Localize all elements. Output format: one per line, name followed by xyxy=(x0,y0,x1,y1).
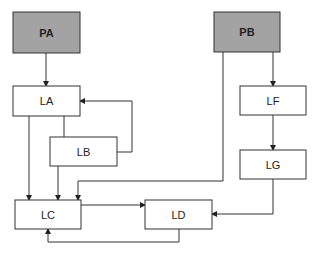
node-lc-label: LC xyxy=(41,209,55,221)
node-pb: PB xyxy=(214,12,280,52)
node-lg: LG xyxy=(240,150,306,179)
node-lc: LC xyxy=(15,200,81,229)
node-pa-label: PA xyxy=(39,27,54,39)
node-lf-label: LF xyxy=(267,95,280,107)
node-la: LA xyxy=(13,86,80,116)
node-ld-label: LD xyxy=(171,209,185,221)
node-ld: LD xyxy=(145,200,212,229)
edge-pb-lc xyxy=(78,52,223,200)
node-lb-label: LB xyxy=(77,146,90,158)
node-la-label: LA xyxy=(40,95,54,107)
node-lf: LF xyxy=(240,86,306,115)
node-pb-label: PB xyxy=(239,26,254,38)
node-lg-label: LG xyxy=(266,159,281,171)
edge-lg-ld xyxy=(212,179,273,214)
edge-ld-lc xyxy=(48,229,179,242)
node-lb: LB xyxy=(50,137,117,166)
flow-diagram: PA PB LA LB LC LD LF LG xyxy=(0,0,317,256)
node-pa: PA xyxy=(13,12,80,53)
